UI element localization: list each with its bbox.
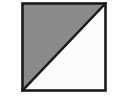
shaded-square-diagram: Square divided by a diagonal with one ha… [0, 0, 124, 103]
figure-container: Square divided by a diagonal with one ha… [0, 0, 124, 103]
